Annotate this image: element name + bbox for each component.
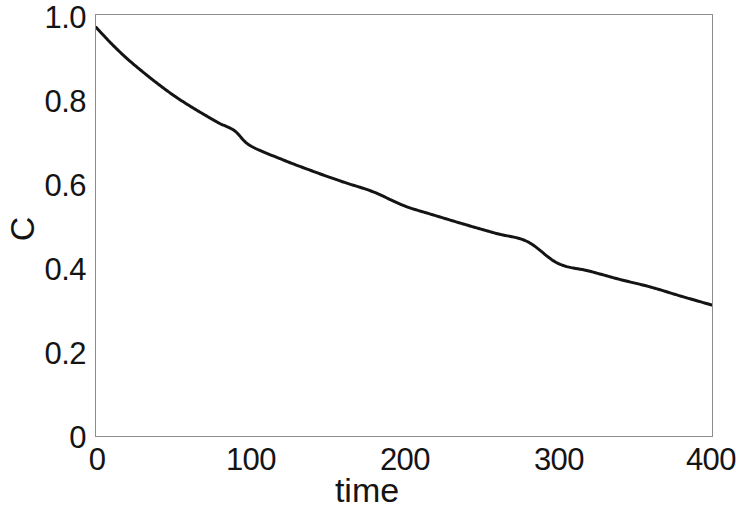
plot-area (95, 14, 713, 437)
y-tick-label-1.0: 1.0 (0, 2, 86, 33)
x-tick-label-0: 0 (89, 444, 106, 475)
decay-curve-plot (96, 15, 712, 436)
y-tick-label-0.8: 0.8 (0, 86, 86, 117)
x-tick-label-100: 100 (226, 444, 276, 475)
x-tick-label-400: 400 (686, 444, 736, 475)
x-tick-label-300: 300 (534, 444, 584, 475)
y-axis-title: C (5, 189, 39, 269)
x-axis-title: time (0, 472, 734, 508)
series-line-C (96, 27, 712, 305)
y-tick-label-0.2: 0.2 (0, 338, 86, 369)
y-tick-label-0: 0 (0, 422, 86, 453)
